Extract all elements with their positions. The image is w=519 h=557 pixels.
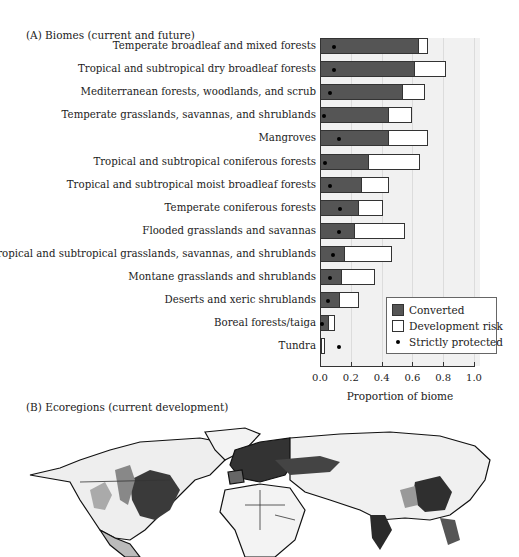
panel-b-title: (B) Ecoregions (current development) — [26, 401, 228, 413]
converted-bar — [320, 107, 389, 123]
x-tick — [382, 362, 383, 366]
x-tick — [443, 362, 444, 366]
x-tick — [474, 362, 475, 366]
x-tick-label: 0.6 — [397, 372, 427, 383]
category-label: Mediterranean forests, woodlands, and sc… — [81, 86, 316, 98]
legend-label: Strictly protected — [409, 336, 503, 348]
category-label: Tropical and subtropical dry broadleaf f… — [78, 63, 316, 75]
x-axis-line — [320, 366, 475, 367]
converted-bar — [320, 130, 389, 146]
legend-item-development-risk: Development risk — [392, 319, 503, 333]
category-label: Temperate coniferous forests — [165, 202, 316, 214]
legend-item-converted: Converted — [392, 303, 464, 317]
category-label: Deserts and xeric shrublands — [164, 294, 316, 306]
legend-label: Development risk — [409, 320, 503, 332]
x-tick-label: 0.8 — [428, 372, 458, 383]
category-label: Montane grasslands and shrublands — [128, 271, 316, 283]
category-label: Tundra — [279, 340, 316, 352]
x-tick — [412, 362, 413, 366]
category-label: Mangroves — [258, 132, 316, 144]
x-tick-label: 0.2 — [336, 372, 366, 383]
legend-item-strictly-protected: Strictly protected — [392, 335, 503, 349]
x-tick-label: 0.0 — [305, 372, 335, 383]
converted-swatch-icon — [392, 304, 404, 316]
category-label: Boreal forests/taiga — [214, 317, 316, 329]
strictly-protected-marker — [328, 184, 332, 188]
ecoregion-world-map — [20, 420, 519, 557]
strictly-protected-marker — [328, 276, 332, 280]
x-tick-label: 0.4 — [367, 372, 397, 383]
converted-bar — [320, 338, 322, 354]
category-label: Temperate broadleaf and mixed forests — [113, 40, 316, 52]
category-label: Temperate grasslands, savannas, and shru… — [62, 109, 316, 121]
converted-bar — [320, 84, 403, 100]
x-tick-label: 1.0 — [459, 372, 489, 383]
development-risk-swatch-icon — [392, 320, 404, 332]
x-tick — [320, 362, 321, 366]
strictly-protected-marker — [328, 91, 332, 95]
converted-bar — [320, 154, 369, 170]
x-tick — [351, 362, 352, 366]
converted-bar — [320, 177, 362, 193]
strictly-protected-marker — [337, 230, 341, 234]
dot-marker-icon — [392, 336, 404, 348]
x-axis-label: Proportion of biome — [340, 390, 460, 402]
category-label: Tropical and subtropical grasslands, sav… — [0, 248, 316, 260]
legend-label: Converted — [409, 304, 464, 316]
category-label: Tropical and subtropical moist broadleaf… — [67, 179, 316, 191]
strictly-protected-marker — [331, 253, 335, 257]
strictly-protected-marker — [322, 114, 326, 118]
category-label: Flooded grasslands and savannas — [142, 225, 316, 237]
category-label: Tropical and subtropical coniferous fore… — [93, 156, 316, 168]
strictly-protected-marker — [323, 161, 327, 165]
legend: Converted Development risk Strictly prot… — [386, 297, 497, 354]
